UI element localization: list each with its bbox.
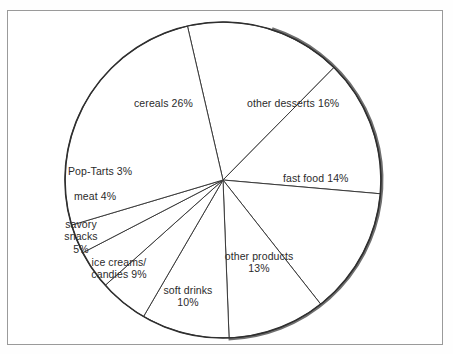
slice-label-line: 5% bbox=[64, 243, 97, 255]
slice-label-line: other desserts 16% bbox=[247, 97, 339, 109]
slice-label-pop-tarts: Pop-Tarts 3% bbox=[68, 165, 132, 177]
slice-label-fast-food: fast food 14% bbox=[283, 172, 349, 184]
slice-label-cereals: cereals 26% bbox=[134, 97, 193, 109]
slice-label-other-desserts: other desserts 16% bbox=[247, 97, 339, 109]
slice-label-line: 13% bbox=[225, 262, 294, 274]
slice-label-line: snacks bbox=[64, 230, 97, 242]
pie-chart-figure: other desserts 16%fast food 14%other pro… bbox=[0, 0, 453, 354]
slice-label-line: ice creams/ bbox=[91, 256, 146, 268]
slice-label-line: cereals 26% bbox=[134, 97, 193, 109]
slice-label-soft-drinks: soft drinks10% bbox=[164, 284, 213, 309]
slice-label-line: meat 4% bbox=[74, 190, 116, 202]
slice-label-other-products: other products13% bbox=[225, 250, 294, 275]
slice-label-line: soft drinks bbox=[164, 284, 213, 296]
slice-label-line: candies 9% bbox=[91, 268, 146, 280]
slice-label-line: Pop-Tarts 3% bbox=[68, 165, 132, 177]
slice-label-meat: meat 4% bbox=[74, 190, 116, 202]
slice-label-line: fast food 14% bbox=[283, 172, 349, 184]
slice-label-ice-creams-candies: ice creams/candies 9% bbox=[91, 256, 146, 281]
slice-label-line: 10% bbox=[164, 296, 213, 308]
slice-label-line: other products bbox=[225, 250, 294, 262]
slice-label-savory-snacks: savorysnacks5% bbox=[64, 218, 97, 255]
slice-label-line: savory bbox=[64, 218, 97, 230]
